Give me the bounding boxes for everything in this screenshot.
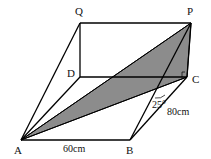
label-q: Q <box>75 5 83 17</box>
label-a: A <box>14 144 22 156</box>
label-c: C <box>192 73 199 85</box>
label-angle: 25° <box>152 99 166 110</box>
label-p: P <box>187 5 193 17</box>
label-b: B <box>126 144 133 156</box>
label-bc-length: 80cm <box>167 106 189 117</box>
label-ab-length: 60cm <box>63 143 85 154</box>
angle-arc <box>155 95 165 98</box>
prism-diagram: Q P D C A B 60cm 80cm 25° <box>0 0 211 159</box>
label-d: D <box>67 67 75 79</box>
